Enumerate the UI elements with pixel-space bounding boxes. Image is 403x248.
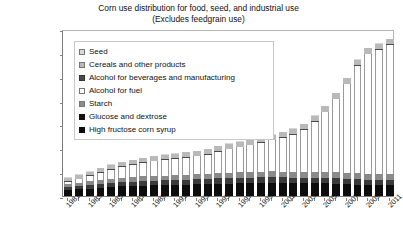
legend-item-label: Cereals and other products [89, 58, 186, 71]
bar-segment [354, 66, 362, 173]
bar-1989 [150, 156, 158, 196]
legend-swatch-icon [79, 62, 85, 68]
bar-segment [193, 184, 201, 196]
bar-segment [171, 159, 179, 175]
bar-segment [139, 163, 147, 176]
bar-2009 [364, 48, 372, 196]
bar-segment [107, 170, 115, 179]
legend-item-label: Alcohol for fuel [89, 84, 142, 97]
bar-1985 [107, 164, 115, 196]
bar-2000 [268, 134, 276, 196]
bar-segment [97, 173, 105, 180]
bar-2002 [289, 128, 297, 196]
bar-2011 [386, 39, 394, 197]
bar-1981 [64, 177, 72, 196]
bar-1996 [225, 143, 233, 196]
bar-segment [311, 122, 319, 172]
bar-segment [289, 135, 297, 172]
legend-swatch-icon [79, 114, 85, 120]
bar-2008 [354, 59, 362, 196]
legend-item: Alcohol for fuel [79, 84, 269, 97]
legend-swatch-icon [79, 127, 85, 133]
bar-1990 [161, 154, 169, 196]
bar-segment [279, 138, 287, 171]
bar-segment [236, 147, 244, 172]
bar-segment [161, 160, 169, 175]
chart-subtitle: (Excludes feedgrain use) [0, 14, 397, 25]
legend-item-label: Starch [89, 97, 112, 110]
legend-item: Alcohol for beverages and manufacturing [79, 71, 269, 84]
legend-item: Cereals and other products [79, 58, 269, 71]
chart-title: Corn use distribution for food, seed, an… [0, 3, 397, 14]
bar-1995 [214, 146, 222, 196]
bar-2004 [311, 115, 319, 196]
bar-2006 [332, 93, 340, 196]
legend-swatch-icon [79, 75, 85, 81]
bar-1999 [257, 137, 265, 196]
legend-item-label: Alcohol for beverages and manufacturing [89, 71, 235, 84]
legend-item: Seed [79, 45, 269, 58]
bar-segment [300, 130, 308, 172]
legend-item-label: Glucose and dextrose [89, 110, 167, 123]
bar-segment [279, 183, 287, 196]
bar-segment [343, 84, 351, 172]
bar-segment [375, 50, 383, 174]
bar-2007 [343, 78, 351, 196]
bar-segment [246, 145, 254, 172]
bar-segment [214, 152, 222, 173]
bar-segment [225, 149, 233, 172]
bar-segment [257, 183, 265, 196]
x-axis: 1981198319851987198919911993199519971999… [62, 198, 394, 248]
bar-segment [182, 158, 190, 175]
bar-segment [257, 143, 265, 172]
legend-swatch-icon [79, 49, 85, 55]
legend-swatch-icon [79, 88, 85, 94]
bar-1991 [171, 153, 179, 196]
bar-segment [364, 54, 372, 173]
bar-2010 [375, 43, 383, 196]
legend-swatch-icon [79, 101, 85, 107]
legend-item-label: Seed [89, 45, 108, 58]
bar-segment [321, 112, 329, 172]
bar-1994 [204, 149, 212, 196]
bar-1998 [246, 139, 254, 196]
bar-1997 [236, 141, 244, 196]
legend-item: Starch [79, 97, 269, 110]
bar-segment [268, 140, 276, 171]
bar-segment [204, 155, 212, 174]
bar-segment [332, 99, 340, 172]
bar-1987 [129, 160, 137, 197]
bar-2005 [321, 106, 329, 196]
bar-1983 [86, 171, 94, 196]
legend-item: Glucose and dextrose [79, 110, 269, 123]
legend-item: High fructose corn syrup [79, 123, 269, 136]
bar-segment [300, 183, 308, 196]
legend-item-label: High fructose corn syrup [89, 123, 176, 136]
bar-segment [386, 45, 394, 174]
bar-segment [343, 184, 351, 196]
bar-segment [129, 165, 137, 177]
bar-segment [193, 156, 201, 174]
bar-2003 [300, 124, 308, 196]
bar-1988 [139, 157, 147, 196]
bar-segment [386, 185, 394, 196]
bar-1993 [193, 150, 201, 196]
bar-1986 [118, 162, 126, 196]
chart-title-block: Corn use distribution for food, seed, an… [0, 3, 397, 25]
bar-segment [236, 183, 244, 196]
bar-1992 [182, 152, 190, 196]
bar-segment [129, 186, 137, 196]
bar-segment [150, 161, 158, 176]
bar-segment [118, 167, 126, 178]
chart-legend: SeedCereals and other productsAlcohol fo… [74, 41, 274, 140]
bar-2001 [279, 132, 287, 196]
